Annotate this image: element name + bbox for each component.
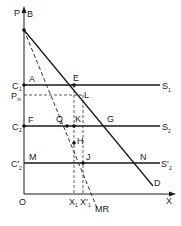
label-j: J <box>86 152 91 162</box>
s2-prime-sub: 2 <box>169 165 172 171</box>
label-f: F <box>28 115 34 125</box>
label-a: A <box>29 74 35 84</box>
label-d: D <box>154 178 161 188</box>
x1-prime-sub: 1 <box>88 202 91 208</box>
label-g: G <box>107 114 114 124</box>
monopoly-diagram: P X O C 1 P m C 2 C' 2 A F M S 1 S 2 S' … <box>0 0 181 226</box>
label-k: K <box>75 114 81 124</box>
label-n: N <box>140 152 147 162</box>
point-a <box>22 83 26 87</box>
label-b: B <box>27 9 33 19</box>
label-l: L <box>84 90 89 100</box>
point-e <box>72 83 76 87</box>
label-h: H <box>77 136 84 146</box>
s2-sub: 2 <box>168 128 171 134</box>
label-e: E <box>73 73 79 83</box>
point-b <box>22 28 26 32</box>
c1-label: C <box>12 81 19 91</box>
c1-sub: 1 <box>19 86 22 92</box>
point-h <box>72 141 76 145</box>
label-m: M <box>29 152 37 162</box>
s2-prime-label: S' <box>161 159 169 169</box>
x-axis-label: X <box>166 196 172 206</box>
y-axis-arrow-icon <box>22 6 27 13</box>
c2-sub: 2 <box>19 127 22 133</box>
origin-label: O <box>19 197 26 207</box>
point-k <box>72 124 76 128</box>
x1-prime-label: X' <box>80 197 88 207</box>
point-j <box>81 161 85 165</box>
point-q <box>65 124 69 128</box>
c2-label: C <box>12 122 19 132</box>
label-q: Q <box>56 114 63 124</box>
point-f <box>22 124 26 128</box>
c2-prime-sub: 2 <box>19 165 22 171</box>
y-axis-label: P <box>14 8 20 18</box>
label-mr: MR <box>95 204 109 214</box>
s1-sub: 1 <box>168 87 171 93</box>
pm-sub: m <box>17 96 21 102</box>
x1-sub: 1 <box>75 202 78 208</box>
